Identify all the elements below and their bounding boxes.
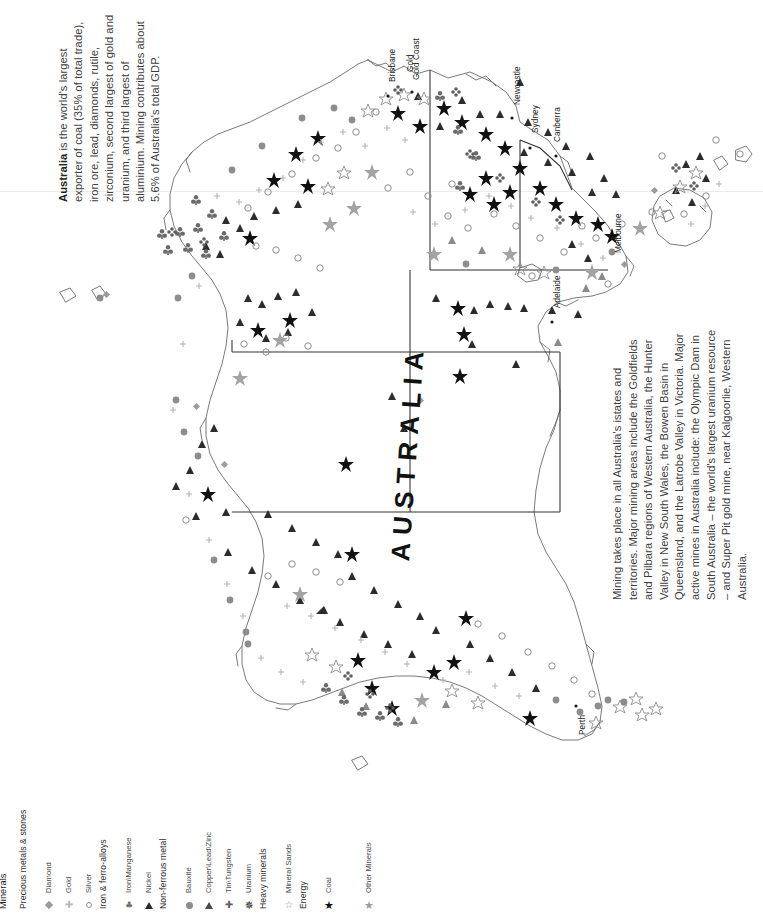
legend-heading-text: Heavy minerals bbox=[258, 848, 268, 909]
legend-heading-text: Non-ferrous metal bbox=[158, 839, 168, 909]
club-icon: ♣ bbox=[123, 899, 135, 911]
legend-item-label: Silver bbox=[84, 874, 93, 893]
legend-item-silver[interactable]: Silver bbox=[82, 811, 96, 915]
legend-item-label: Gold bbox=[64, 877, 73, 893]
city-label-canberra: Canberra bbox=[553, 107, 562, 142]
legend-item-coal[interactable]: ★Coal bbox=[322, 811, 336, 915]
legend-item-label: Nickel bbox=[144, 872, 153, 893]
legend-item-diamond[interactable]: Diamond bbox=[42, 811, 56, 915]
intro-paragraph: Australia is the world's largest exporte… bbox=[56, 7, 164, 202]
star8-icon: ✵ bbox=[243, 899, 255, 911]
legend-item-label: Iron\Manganese bbox=[124, 837, 133, 893]
legend-item-label: Other Minerals bbox=[364, 843, 373, 894]
open-star-icon: ☆ bbox=[283, 899, 295, 911]
intro-body: is the world's largest exporter of coal … bbox=[57, 15, 161, 202]
body-paragraph: Mining takes place in all Australia's is… bbox=[610, 325, 750, 600]
legend-item-bauxite[interactable]: Bauxite bbox=[182, 811, 196, 915]
map-page: AUSTRALIA Australia is the world's large… bbox=[0, 0, 763, 915]
legend-item-other-minerals[interactable]: ★Other Minerals bbox=[362, 811, 376, 915]
legend-heading-text: Iron & ferro-alloys bbox=[98, 839, 108, 909]
city-label-adelaide: Adelaide bbox=[553, 275, 562, 308]
legend-item-label: Bauxite bbox=[184, 867, 193, 893]
legend-item-label: Coal bbox=[324, 877, 333, 893]
city-label-melbourne: Melbourne bbox=[614, 213, 623, 253]
city-label-sydney: Sydney bbox=[531, 105, 540, 133]
legend-item-copper-lead-zinc[interactable]: Copper\Lead\Zinc bbox=[202, 811, 216, 915]
legend-item-label: Tin\Tungsten bbox=[224, 849, 233, 893]
map-legend: Minerals Precious metals & stonesDiamond… bbox=[0, 805, 763, 915]
plus-club-icon: ✚ bbox=[223, 899, 235, 911]
legend-item-uranium[interactable]: ✵Uranium bbox=[242, 811, 256, 915]
legend-item-iron-manganese[interactable]: ♣Iron\Manganese bbox=[122, 811, 136, 915]
cross-icon: ✚ bbox=[63, 899, 75, 911]
city-label-brisbane: Brisbane bbox=[388, 49, 397, 82]
filled-circle-icon bbox=[183, 899, 195, 911]
star5-icon: ★ bbox=[323, 899, 335, 911]
legend-item-label: Diamond bbox=[44, 862, 53, 893]
open-circle-icon bbox=[83, 899, 95, 911]
diamond-icon bbox=[43, 899, 55, 911]
star5-grey-icon: ★ bbox=[363, 899, 375, 911]
legend-item-mineral-sands[interactable]: ☆Mineral Sands bbox=[282, 811, 296, 915]
triangle-grey-icon bbox=[203, 899, 215, 911]
triangle-icon bbox=[143, 899, 155, 911]
legend-title: Minerals bbox=[0, 873, 8, 909]
legend-heading-text: Energy bbox=[298, 881, 308, 909]
city-label-gold: Gold bbox=[406, 54, 415, 72]
legend-heading-text: Precious metals & stones bbox=[18, 810, 28, 909]
intro-lead: Australia bbox=[57, 154, 69, 202]
legend-item-nickel[interactable]: Nickel bbox=[142, 811, 156, 915]
legend-item-label: Uranium bbox=[244, 864, 253, 893]
city-label-perth: Perth bbox=[578, 715, 587, 735]
city-label-newcastle: Newcastle bbox=[513, 66, 522, 105]
legend-item-tin-tungsten[interactable]: ✚Tin\Tungsten bbox=[222, 811, 236, 915]
legend-item-label: Mineral Sands bbox=[284, 844, 293, 893]
legend-item-label: Copper\Lead\Zinc bbox=[204, 832, 213, 893]
legend-item-gold[interactable]: ✚Gold bbox=[62, 811, 76, 915]
